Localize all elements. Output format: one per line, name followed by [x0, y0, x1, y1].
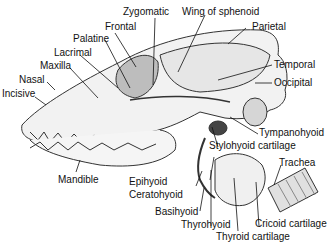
- label-frontal: Frontal: [105, 21, 136, 32]
- label-zygomatic: Zygomatic: [123, 6, 169, 17]
- label-nasal: Nasal: [19, 74, 45, 85]
- label-temporal: Temporal: [274, 59, 315, 70]
- label-ceratohyoid: Ceratohyoid: [129, 189, 183, 200]
- label-mandible: Mandible: [58, 174, 99, 185]
- label-tympanohyoid: Tympanohyoid: [259, 127, 324, 138]
- label-basihyoid: Basihyoid: [155, 206, 198, 217]
- label-trachea: Trachea: [279, 157, 315, 168]
- label-epihyoid: Epihyoid: [129, 176, 167, 187]
- label-thyrohyoid: Thyrohyoid: [181, 219, 230, 230]
- label-stylohyoid-cartilage: Stylohyoid cartilage: [209, 140, 296, 151]
- label-parietal: Parietal: [252, 21, 286, 32]
- label-incisive: Incisive: [2, 88, 35, 99]
- label-occipital: Occipital: [274, 77, 312, 88]
- skull-diagram: Zygomatic Wing of sphenoid Frontal Parie…: [0, 0, 331, 247]
- label-lacrimal: Lacrimal: [54, 47, 92, 58]
- label-wing-of-sphenoid: Wing of sphenoid: [182, 6, 259, 17]
- label-palatine: Palatine: [73, 33, 109, 44]
- label-cricoid-cartilage: Cricoid cartilage: [255, 218, 327, 229]
- label-thyroid-cartilage: Thyroid cartilage: [216, 231, 290, 242]
- label-maxilla: Maxilla: [40, 60, 71, 71]
